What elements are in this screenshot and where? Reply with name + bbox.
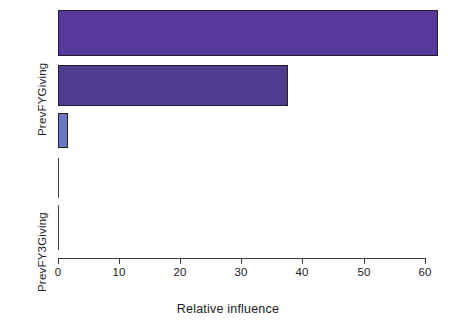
x-tick-label-60: 60 — [405, 266, 445, 278]
bar-fifth-variable — [58, 205, 59, 250]
x-tick-label-10: 10 — [99, 266, 139, 278]
y-axis-label-prevfygiving: PrevFYGiving — [36, 63, 48, 136]
x-axis-title: Relative influence — [0, 302, 456, 316]
bar-third-variable — [58, 113, 68, 148]
bar-fourth-variable — [58, 158, 59, 198]
x-tick-0 — [58, 258, 59, 264]
x-tick-label-30: 30 — [221, 266, 261, 278]
x-tick-label-20: 20 — [160, 266, 200, 278]
x-tick-20 — [180, 258, 181, 264]
chart-screenshot: 0 10 20 30 40 50 60 PrevFYGiving PrevFY3… — [0, 0, 456, 331]
x-tick-label-50: 50 — [344, 266, 384, 278]
x-tick-60 — [425, 258, 426, 264]
bar-prevfygiving — [58, 10, 438, 56]
y-axis-label-prevfy3giving: PrevFY3Giving — [36, 212, 48, 292]
x-tick-10 — [119, 258, 120, 264]
x-tick-50 — [364, 258, 365, 264]
x-axis-line — [58, 258, 426, 259]
relative-influence-bar-chart: 0 10 20 30 40 50 60 PrevFYGiving PrevFY3… — [0, 0, 456, 331]
bar-prevfy3giving — [58, 65, 288, 106]
x-tick-40 — [302, 258, 303, 264]
x-tick-30 — [241, 258, 242, 264]
x-tick-label-40: 40 — [282, 266, 322, 278]
